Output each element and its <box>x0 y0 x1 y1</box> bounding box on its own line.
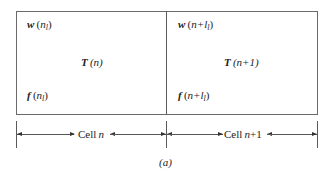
dimension-tick-right <box>317 121 318 148</box>
T-symbol: T <box>224 56 231 68</box>
f-symbol: f <box>27 89 31 101</box>
variable: n+l <box>188 89 204 101</box>
cell-divider <box>166 11 167 114</box>
figure-caption: (a) <box>159 156 172 168</box>
cell-n-bottom-label: f (nl) <box>27 89 48 105</box>
cell-suffix: +1 <box>250 128 262 140</box>
cell-word: Cell <box>224 128 242 140</box>
arrowhead-right-icon <box>161 132 166 136</box>
cell-word: Cell <box>78 128 96 140</box>
arrowhead-right-icon <box>70 132 75 136</box>
cell-pair-box <box>16 11 318 115</box>
w-symbol: w <box>27 18 34 30</box>
cell-n1-center-label: T (n+1) <box>224 56 259 68</box>
cell-n1-dimension-line-right <box>267 134 317 135</box>
argument: (n+1) <box>233 56 259 68</box>
cell-n-dimension-label: Cell n <box>78 128 104 140</box>
w-symbol: w <box>178 18 185 30</box>
cell-n1-bottom-label: f (n+ll) <box>178 89 209 105</box>
cell-n1-top-label: w (n+ll) <box>178 18 213 34</box>
cell-n-dimension-line-left <box>17 134 74 135</box>
cell-var: n <box>99 128 105 140</box>
paren: ) <box>48 18 52 30</box>
variable: n+l <box>191 18 207 30</box>
arrowhead-left-icon <box>17 132 22 136</box>
argument: (n) <box>90 56 103 68</box>
T-symbol: T <box>81 56 88 68</box>
cell-n-center-label: T (n) <box>81 56 103 68</box>
cell-n1-dimension-label: Cell n+1 <box>224 128 262 140</box>
arrowhead-right-icon <box>218 132 223 136</box>
paren: ) <box>209 18 213 30</box>
paren: ) <box>44 89 48 101</box>
paren: ) <box>206 89 210 101</box>
cell-n1-dimension-line-left <box>167 134 223 135</box>
arrowhead-right-icon <box>312 132 317 136</box>
f-symbol: f <box>178 89 182 101</box>
cell-n-dimension-line-right <box>110 134 166 135</box>
cell-n-top-label: w (nl) <box>27 18 52 34</box>
